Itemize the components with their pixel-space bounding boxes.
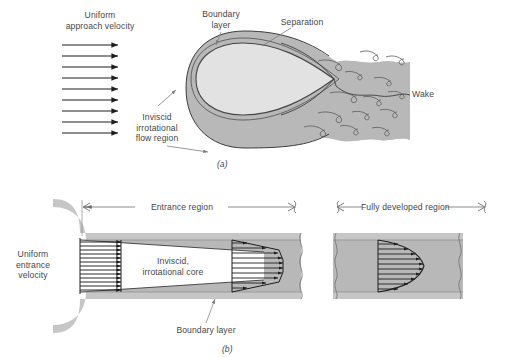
pipe-bottom-wall-right — [333, 292, 463, 299]
label-uniform-approach-velocity: Uniform approach velocity — [44, 10, 156, 31]
label-boundary-layer-b: Boundary layer — [148, 325, 264, 336]
label-boundary-layer-a: Boundary layer — [185, 9, 257, 30]
label-wake: Wake — [412, 89, 452, 100]
leader-inviscid-down — [167, 146, 208, 152]
leader-inviscid-up — [158, 90, 176, 106]
label-entrance-region: Entrance region — [136, 202, 228, 213]
figure-canvas — [0, 0, 506, 357]
panel-label-a: (a) — [217, 159, 228, 169]
label-uniform-entrance-velocity: Uniform entrance velocity — [2, 249, 64, 281]
leader-boundary-layer-b — [206, 299, 215, 323]
approach-velocity-arrows — [62, 45, 118, 133]
pipe-top-wall-right — [333, 233, 463, 240]
panel-b-group — [53, 199, 486, 333]
label-fully-developed-region: Fully developed region — [361, 202, 447, 213]
label-separation: Separation — [271, 17, 333, 28]
label-inviscid-irrotational-core: Inviscid, irrotational core — [120, 256, 226, 277]
panel-a-group — [62, 28, 410, 152]
diagram-svg — [0, 0, 506, 357]
label-inviscid-irrotational-flow-region: Inviscid irrotational flow region — [118, 112, 196, 144]
panel-label-b: (b) — [222, 344, 233, 354]
